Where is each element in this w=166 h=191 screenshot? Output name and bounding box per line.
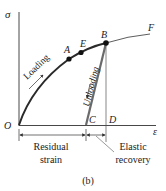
- label-b: B: [101, 29, 107, 40]
- point-b: [103, 40, 109, 46]
- y-axis-label: σ: [5, 8, 11, 20]
- label-e: E: [79, 38, 86, 49]
- residual-strain-label-line2: strain: [40, 154, 62, 165]
- stress-strain-diagram: σ O ε A E B F C D Loading Unloading Resi…: [0, 0, 166, 191]
- label-f: F: [147, 22, 155, 33]
- elastic-recovery-label-line2: recovery: [116, 154, 151, 165]
- figure-caption: (b): [82, 175, 94, 187]
- unloading-label: Unloading: [81, 65, 101, 107]
- residual-strain-label-line1: Residual: [34, 141, 69, 152]
- elastic-recovery-label-line1: Elastic: [119, 141, 147, 152]
- point-e: [78, 50, 83, 55]
- point-a: [66, 56, 71, 61]
- elastic-leader-line: [96, 136, 114, 152]
- x-axis-label: ε: [153, 126, 157, 137]
- origin-label: O: [4, 120, 11, 131]
- label-d: D: [108, 114, 117, 125]
- label-a: A: [63, 44, 71, 55]
- curve-tail-bf: [106, 34, 150, 43]
- label-c: C: [89, 114, 96, 125]
